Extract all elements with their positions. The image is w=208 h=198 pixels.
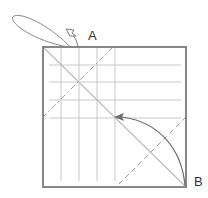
fold-arrow-a-head-icon (66, 29, 76, 36)
fold-arrow-b-curve (122, 117, 185, 186)
fold-diagram: A B (0, 0, 208, 198)
fold-behind-loop (12, 15, 70, 47)
point-label-a: A (88, 29, 97, 42)
point-label-b: B (194, 175, 203, 188)
grid-vertical-lines (61, 47, 115, 181)
diagram-canvas (0, 0, 208, 198)
